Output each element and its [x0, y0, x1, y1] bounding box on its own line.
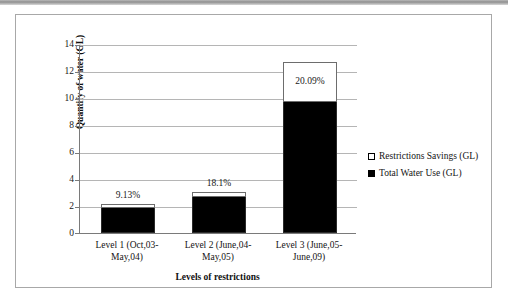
y-axis-tick-labels: 14 12 10 8 6 4 2 0: [52, 45, 74, 234]
y-tick-label: 0: [69, 229, 74, 238]
y-tick-label: 6: [69, 148, 74, 157]
y-axis-tick: [75, 45, 80, 46]
x-axis-label-level-3: Level 3 (June,05-June,09): [263, 239, 355, 263]
y-tick-label: 10: [65, 94, 75, 103]
legend-label: Total Water Use (GL): [379, 168, 462, 178]
bar-segment-restrictions-savings[interactable]: 20.09%: [283, 62, 337, 102]
y-tick-label: 14: [65, 40, 75, 49]
legend-label: Restrictions Savings (GL): [379, 151, 478, 161]
y-axis-tick: [75, 233, 80, 234]
y-axis-tick: [75, 180, 80, 181]
plot-area: 9.13% 18.1% 20.09%: [79, 45, 356, 234]
bar-segment-total-water-use[interactable]: [283, 102, 337, 233]
y-axis-tick: [75, 99, 80, 100]
bar-value-label: 18.1%: [192, 178, 246, 188]
x-axis-label-level-2: Level 2 (June,04-May,05): [172, 239, 264, 263]
bar-segment-total-water-use[interactable]: [192, 197, 246, 233]
chart-legend: Restrictions Savings (GL) Total Water Us…: [368, 151, 478, 185]
y-axis-tick: [75, 153, 80, 154]
bar-segment-restrictions-savings[interactable]: [101, 204, 155, 208]
bar-group-level-2[interactable]: 18.1%: [192, 192, 246, 233]
gridline: [80, 45, 357, 46]
y-tick-label: 8: [69, 121, 74, 130]
bar-group-level-3[interactable]: 20.09%: [283, 62, 337, 233]
page-top-strip: [0, 0, 508, 5]
legend-item-restrictions-savings[interactable]: Restrictions Savings (GL): [368, 151, 478, 161]
bar-segment-total-water-use[interactable]: [101, 208, 155, 233]
bar-group-level-1[interactable]: 9.13%: [101, 204, 155, 233]
y-axis-tick: [75, 207, 80, 208]
x-axis-category-labels: Level 1 (Oct,03-May,04) Level 2 (June,04…: [79, 239, 356, 271]
y-tick-label: 2: [69, 202, 74, 211]
y-axis-tick: [75, 72, 80, 73]
x-axis-label-level-1: Level 1 (Oct,03-May,04): [81, 239, 173, 263]
legend-swatch-icon: [368, 153, 375, 160]
bar-value-label: 20.09%: [284, 76, 336, 86]
chart-frame: Quantify of water (GL) 14 12 10 8 6 4 2 …: [15, 14, 492, 288]
bar-segment-restrictions-savings[interactable]: [192, 192, 246, 197]
bar-value-label: 9.13%: [101, 190, 155, 200]
legend-swatch-icon: [368, 170, 375, 177]
y-tick-label: 12: [65, 67, 75, 76]
y-tick-label: 4: [69, 175, 74, 184]
x-axis-title: Levels of restrictions: [79, 272, 356, 282]
legend-item-total-water-use[interactable]: Total Water Use (GL): [368, 168, 478, 178]
y-axis-tick: [75, 126, 80, 127]
